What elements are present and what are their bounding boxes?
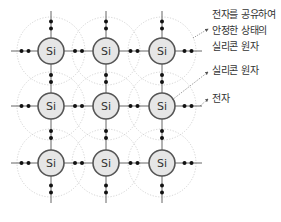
leader-line-electron: [200, 99, 208, 106]
electron-dot: [49, 191, 53, 195]
annotation-shared-atom-line-1: 전자를 공유하여: [212, 7, 276, 23]
electron-dot: [136, 104, 140, 108]
electron-dot: [160, 80, 164, 84]
atom-symbol: Si: [101, 100, 111, 113]
electron-dot: [73, 104, 77, 108]
electron-dot: [27, 161, 31, 165]
electron-dot: [20, 104, 24, 108]
electron-dot: [104, 129, 108, 133]
atom-symbol: Si: [101, 45, 111, 58]
electron-dot: [104, 136, 108, 140]
electron-dot: [183, 161, 187, 165]
electron-dot: [160, 73, 164, 77]
leader-line-silicon-atom: [172, 72, 208, 100]
silicon-crystal-diagram: SiSiSiSiSiSiSiSiSi 전자를 공유하여 안정한 상태의 실리콘 …: [0, 0, 281, 222]
electron-dot: [104, 80, 108, 84]
electron-dot: [160, 191, 164, 195]
electron-dot: [160, 129, 164, 133]
electron-dot: [136, 49, 140, 53]
electron-dot: [129, 49, 133, 53]
atom-symbol: Si: [157, 100, 167, 113]
electron-dot: [73, 161, 77, 165]
atom-symbol: Si: [46, 100, 56, 113]
electron-dot: [160, 20, 164, 24]
electron-dot: [160, 184, 164, 188]
electron-dot: [129, 104, 133, 108]
electron-dot: [49, 27, 53, 31]
electron-dot: [183, 104, 187, 108]
electron-dot: [104, 184, 108, 188]
electron-dot: [104, 73, 108, 77]
electron-dot: [104, 20, 108, 24]
electron-dot: [183, 49, 187, 53]
annotation-shared-atom: 전자를 공유하여 안정한 상태의 실리콘 원자: [212, 7, 276, 55]
electron-dot: [80, 49, 84, 53]
electron-dot: [49, 136, 53, 140]
electron-dot: [80, 161, 84, 165]
electron-dot: [49, 184, 53, 188]
electron-dot: [80, 104, 84, 108]
electron-dot: [49, 20, 53, 24]
annotation-silicon-atom: 실리콘 원자: [212, 63, 258, 79]
electron-dot: [27, 49, 31, 53]
leader-line-shared-atom: [193, 29, 208, 38]
electron-dot: [160, 136, 164, 140]
electron-dot: [20, 49, 24, 53]
atom-symbol: Si: [101, 157, 111, 170]
electron-dot: [73, 49, 77, 53]
electron-dot: [129, 161, 133, 165]
electron-dot: [20, 161, 24, 165]
atom-symbol: Si: [157, 45, 167, 58]
atom-symbol: Si: [157, 157, 167, 170]
electron-dot: [49, 73, 53, 77]
annotation-shared-atom-line-3: 실리콘 원자: [212, 39, 276, 55]
electron-dot: [190, 104, 194, 108]
electron-dot: [104, 191, 108, 195]
electron-dot: [190, 49, 194, 53]
electron-dot: [190, 161, 194, 165]
annotation-electron: 전자: [212, 91, 229, 107]
electron-dot: [49, 80, 53, 84]
annotation-shared-atom-line-2: 안정한 상태의: [212, 23, 276, 39]
electron-dot: [49, 129, 53, 133]
electron-dot: [160, 27, 164, 31]
electron-dot: [136, 161, 140, 165]
electron-dot: [27, 104, 31, 108]
electron-dot: [104, 27, 108, 31]
atom-symbol: Si: [46, 45, 56, 58]
atom-symbol: Si: [46, 157, 56, 170]
